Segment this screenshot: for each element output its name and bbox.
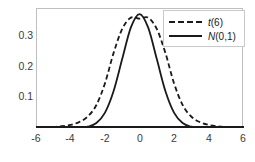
- density-comparison-chart: 0.3 0.2 0.1 -6 -4 -2 0 2 4 6 t(6) N(0,1): [0, 0, 255, 162]
- x-tick-label-2: 2: [162, 133, 186, 144]
- x-tick-label-0: 0: [128, 133, 152, 144]
- x-tick-label-neg4: -4: [58, 133, 82, 144]
- solid-line-key: [169, 32, 202, 40]
- dashed-line-key: [169, 18, 202, 26]
- legend-entry-normal: N(0,1): [169, 29, 239, 43]
- legend-label-t6: t(6): [208, 17, 223, 28]
- legend-label-normal: N(0,1): [208, 31, 236, 42]
- y-tick-label-0.1: 0.1: [3, 91, 33, 101]
- y-tick-label-0.2: 0.2: [3, 61, 33, 71]
- legend-arg-t: (6): [211, 17, 223, 28]
- x-tick-label-6: 6: [231, 133, 255, 144]
- y-tick-label-0.3: 0.3: [3, 30, 33, 40]
- x-tick-label-4: 4: [197, 133, 221, 144]
- x-axis-line: [36, 126, 244, 128]
- legend-entry-t6: t(6): [169, 15, 239, 29]
- legend-arg-n: (0,1): [215, 31, 236, 42]
- legend-box: t(6) N(0,1): [163, 10, 245, 47]
- x-tick-label-neg6: -6: [24, 133, 48, 144]
- x-tick-label-neg2: -2: [93, 133, 117, 144]
